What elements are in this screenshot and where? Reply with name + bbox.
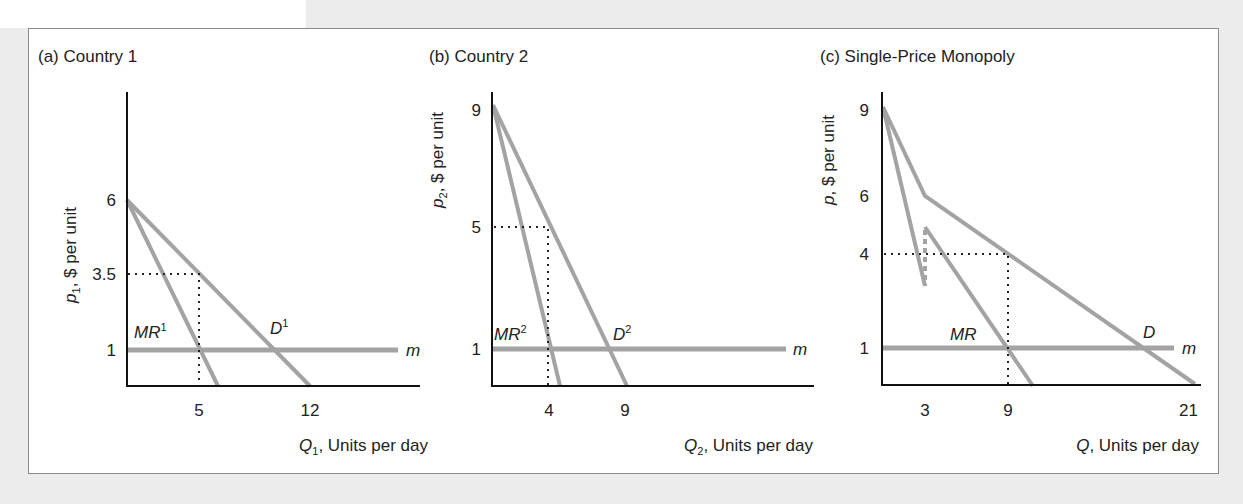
panel-a-xtick-5: 5 — [194, 401, 203, 420]
panel-a-mr-label: MR1 — [134, 321, 167, 342]
panel-b-ytick-1: 1 — [472, 340, 481, 359]
panel-c-d-label: D — [1143, 323, 1155, 342]
panel-c-ylabel: p, $ per unit — [819, 115, 838, 206]
panel-c-xtick-21: 21 — [1179, 401, 1198, 420]
panel-a: (a) Country 1 p1, $ per unit 6 3.5 1 5 1… — [38, 47, 428, 457]
panel-b-mr-label: MR2 — [494, 323, 527, 344]
panel-b: (b) Country 2 p2, $ per unit 9 5 1 4 9 M… — [428, 47, 814, 457]
figure-svg: (a) Country 1 p1, $ per unit 6 3.5 1 5 1… — [0, 0, 1243, 504]
svg-text:p1, $ per unit: p1, $ per unit — [61, 207, 82, 304]
panel-a-demand-curve — [127, 200, 310, 386]
panel-c-m-label: m — [1182, 339, 1196, 358]
panel-b-title: (b) Country 2 — [429, 47, 528, 66]
panel-a-ytick-3.5: 3.5 — [92, 265, 116, 284]
panel-b-xtick-9: 9 — [620, 401, 629, 420]
panel-c: (c) Single-Price Monopoly p, $ per unit … — [819, 47, 1201, 455]
panel-a-xtick-12: 12 — [301, 401, 320, 420]
panel-a-title: (a) Country 1 — [38, 47, 137, 66]
panel-a-d-label: D1 — [270, 317, 288, 338]
svg-text:p2, $ per unit: p2, $ per unit — [428, 112, 449, 209]
panel-b-ytick-9: 9 — [472, 101, 481, 120]
panel-c-mr-upper-segment — [883, 107, 925, 286]
panel-b-xtick-4: 4 — [544, 401, 553, 420]
panel-c-ytick-1: 1 — [860, 339, 869, 358]
panel-c-xtick-3: 3 — [920, 401, 929, 420]
panel-a-m-label: m — [406, 341, 420, 360]
panel-a-ytick-1: 1 — [107, 341, 116, 360]
panel-c-ytick-9: 9 — [860, 101, 869, 120]
panel-c-xtick-9: 9 — [1003, 401, 1012, 420]
svg-text:p, $ per unit: p, $ per unit — [819, 115, 838, 206]
panel-c-mr-label: MR — [950, 325, 976, 344]
panel-b-m-label: m — [793, 340, 807, 359]
panel-b-d-label: D2 — [613, 323, 631, 344]
panel-c-demand-curve — [883, 107, 1195, 384]
panel-c-xlabel: Q, Units per day — [1076, 436, 1199, 455]
panel-c-mr-lower-segment — [925, 227, 1033, 386]
panel-c-title: (c) Single-Price Monopoly — [820, 47, 1015, 66]
panel-a-ylabel: p1, $ per unit — [61, 207, 82, 304]
panel-a-ytick-6: 6 — [107, 191, 116, 210]
panel-c-ytick-6: 6 — [860, 187, 869, 206]
panel-c-ytick-4: 4 — [860, 245, 869, 264]
panel-b-xlabel: Q2, Units per day — [684, 436, 813, 457]
panel-b-ytick-5: 5 — [472, 218, 481, 237]
panel-b-ylabel: p2, $ per unit — [428, 112, 449, 209]
panel-a-xlabel: Q1, Units per day — [299, 436, 428, 457]
panel-a-mr-curve — [127, 200, 218, 386]
